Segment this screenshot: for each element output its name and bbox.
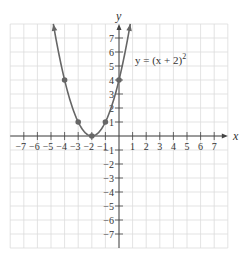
y-tick-label: 1 — [109, 117, 114, 128]
data-point — [89, 133, 95, 139]
x-tick-label: 3 — [157, 141, 162, 152]
data-point — [103, 119, 109, 125]
y-tick-label: 6 — [109, 47, 114, 58]
parabola-graph: −7−6−5−4−3−2−11234567−7−6−5−4−3−2−112345… — [0, 0, 243, 259]
equation-label: y = (x + 2)2 — [135, 52, 186, 67]
x-tick-label: −5 — [43, 141, 54, 152]
y-tick-label: −4 — [103, 187, 114, 198]
x-tick-label: −2 — [83, 141, 94, 152]
y-tick-label: 7 — [109, 33, 114, 44]
x-tick-label: −6 — [29, 141, 40, 152]
data-point — [62, 77, 68, 83]
x-tick-label: 1 — [130, 141, 135, 152]
x-tick-label: −7 — [15, 141, 26, 152]
y-tick-label: 5 — [109, 61, 114, 72]
x-tick-label: −3 — [70, 141, 81, 152]
x-tick-label: 5 — [185, 141, 190, 152]
x-axis-label: x — [232, 129, 239, 143]
y-tick-label: 4 — [109, 75, 114, 86]
y-tick-label: −3 — [103, 173, 114, 184]
x-tick-label: 4 — [171, 141, 176, 152]
data-point — [116, 77, 122, 83]
y-tick-label: −1 — [103, 145, 114, 156]
y-tick-label: −6 — [103, 215, 114, 226]
y-axis-label: y — [115, 9, 122, 23]
y-tick-label: −5 — [103, 201, 114, 212]
data-point — [75, 119, 81, 125]
x-tick-label: 7 — [212, 141, 217, 152]
x-tick-label: −4 — [56, 141, 67, 152]
axes — [10, 24, 228, 248]
y-tick-label: −2 — [103, 159, 114, 170]
x-tick-label: 6 — [198, 141, 203, 152]
x-tick-label: 2 — [144, 141, 149, 152]
y-tick-label: 3 — [109, 89, 114, 100]
y-tick-label: −7 — [103, 229, 114, 240]
